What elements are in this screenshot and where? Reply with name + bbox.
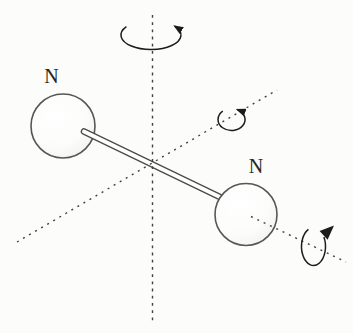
bond-axis-rotation-arrow-icon <box>302 226 334 266</box>
left-atom-sphere <box>31 94 95 158</box>
bond-axis-rotation-arc <box>302 229 326 265</box>
bond-rod <box>84 132 224 200</box>
n2-rotation-diagram: N N <box>0 0 353 333</box>
bond-rod-fill <box>84 132 224 200</box>
right-atom-label: N <box>249 155 263 177</box>
vertical-axis-rotation-arrow-icon <box>121 26 181 49</box>
left-atom-label: N <box>44 65 58 87</box>
right-atom-sphere <box>215 184 277 246</box>
bond-axis-rotation-arrowhead-icon <box>320 226 334 240</box>
diagonal-axis-rotation-arrow-icon <box>218 110 245 131</box>
figure-canvas: N N <box>0 0 353 333</box>
